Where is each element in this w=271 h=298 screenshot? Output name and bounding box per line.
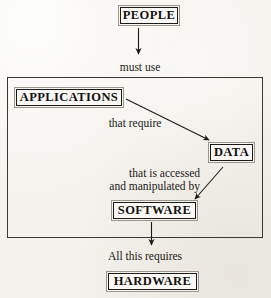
node-data: DATA [208,142,255,163]
node-hardware-frame: HARDWARE [108,273,197,290]
node-hardware: HARDWARE [106,271,199,292]
diagram-canvas: PEOPLE APPLICATIONS DATA SOFTWARE HARDWA… [0,0,271,298]
node-data-frame: DATA [210,144,253,161]
node-software-frame: SOFTWARE [113,202,196,219]
node-applications: APPLICATIONS [14,87,124,108]
node-applications-label: APPLICATIONS [20,91,118,104]
edge-label-accessed-line2: and manipulated by [48,180,200,193]
node-software-label: SOFTWARE [118,204,191,217]
node-people-label: PEOPLE [123,9,175,22]
edge-label-all-this-requires: All this requires [93,250,197,263]
edge-label-accessed-line1: that is accessed [48,167,200,180]
node-software: SOFTWARE [111,200,198,221]
edge-label-accessed-manipulated: that is accessed and manipulated by [48,167,200,193]
node-hardware-label: HARDWARE [114,275,192,288]
node-applications-frame: APPLICATIONS [16,89,122,106]
edge-label-that-require: that require [92,117,178,130]
node-data-label: DATA [214,146,249,159]
node-people: PEOPLE [118,5,180,26]
node-people-frame: PEOPLE [120,7,178,24]
edge-label-must-use: must use [104,61,176,74]
